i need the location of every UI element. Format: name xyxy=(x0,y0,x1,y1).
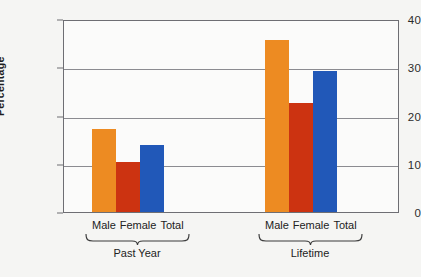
bar-lifetime-male xyxy=(265,40,289,212)
group-label-past-year: Past Year xyxy=(113,247,160,259)
group-brace-past-year xyxy=(84,234,191,245)
x-label-past-year-total: Total xyxy=(160,219,183,231)
bar-past-year-total xyxy=(140,145,164,212)
bar-chart: Percentage 40 30 20 10 0 Male Female Tot… xyxy=(0,0,421,277)
x-label-lifetime-total: Total xyxy=(333,219,356,231)
bar-lifetime-female xyxy=(289,103,313,212)
x-label-past-year-female: Female xyxy=(120,219,157,231)
x-label-lifetime-female: Female xyxy=(293,219,330,231)
gridline-30 xyxy=(64,69,398,70)
x-label-past-year-male: Male xyxy=(92,219,116,231)
bar-past-year-male xyxy=(92,129,116,212)
group-label-lifetime: Lifetime xyxy=(291,247,330,259)
x-label-lifetime-male: Male xyxy=(265,219,289,231)
y-axis-title: Percentage xyxy=(0,56,6,116)
bar-past-year-female xyxy=(116,162,140,212)
gridline-20 xyxy=(64,118,398,119)
bar-lifetime-total xyxy=(313,71,337,212)
group-brace-lifetime xyxy=(257,234,364,245)
plot-area xyxy=(63,20,399,213)
